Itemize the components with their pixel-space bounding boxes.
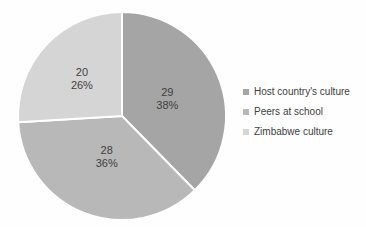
legend-item-peers-at-school: Peers at school bbox=[243, 106, 350, 118]
legend-swatch-icon bbox=[243, 89, 249, 95]
pie-slice-zimbabwe-culture bbox=[18, 12, 122, 122]
legend-label: Zimbabwe culture bbox=[254, 126, 333, 138]
legend-swatch-icon bbox=[243, 109, 249, 115]
pie-chart-figure: 2938%2836%2026% Host country's culture P… bbox=[0, 0, 366, 227]
legend-item-host-countrys-culture: Host country's culture bbox=[243, 86, 350, 98]
legend-item-zimbabwe-culture: Zimbabwe culture bbox=[243, 126, 350, 138]
legend-label: Host country's culture bbox=[254, 86, 350, 98]
legend-label: Peers at school bbox=[254, 106, 323, 118]
chart-legend: Host country's culture Peers at school Z… bbox=[243, 86, 350, 138]
legend-swatch-icon bbox=[243, 129, 249, 135]
